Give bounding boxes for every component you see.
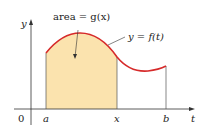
- area-function-diagram: area = g(x) y = f(t) y t 0 a x b: [0, 0, 201, 137]
- area-label: area = g(x): [53, 11, 110, 22]
- tick-a-label: a: [43, 113, 49, 124]
- y-axis-label: y: [20, 18, 27, 29]
- curve-pointer: [108, 37, 125, 45]
- curve-label: y = f(t): [127, 31, 164, 42]
- t-axis-label: t: [191, 113, 196, 124]
- tick-b-label: b: [163, 113, 169, 124]
- y-axis-arrow-icon: [29, 19, 33, 25]
- tick-x-label: x: [114, 113, 120, 124]
- x-axis-arrow-icon: [189, 107, 195, 111]
- origin-label: 0: [18, 113, 24, 124]
